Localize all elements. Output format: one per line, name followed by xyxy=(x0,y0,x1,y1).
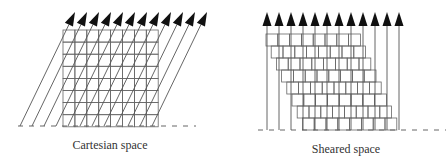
grid-cell xyxy=(111,54,123,66)
grid-cell xyxy=(282,70,294,82)
arrowhead-icon xyxy=(197,12,207,27)
grid-cell xyxy=(146,30,158,42)
grid-cell xyxy=(312,58,324,70)
cartesian-space-panel xyxy=(18,12,207,127)
grid-cell xyxy=(326,118,338,130)
grid-cell xyxy=(63,42,75,54)
grid-cell xyxy=(134,30,146,42)
grid-cell xyxy=(288,58,300,70)
cartesian-space-caption: Cartesian space xyxy=(73,138,148,153)
arrowhead-icon xyxy=(383,12,392,26)
arrowhead-icon xyxy=(263,12,272,26)
grid-cell xyxy=(99,66,111,78)
grid-cell xyxy=(359,58,371,70)
grid-cell xyxy=(287,82,299,94)
grid-cell xyxy=(283,46,295,58)
arrowhead-icon xyxy=(173,12,183,27)
arrow-shaft xyxy=(116,25,165,126)
arrow-shaft xyxy=(20,25,69,126)
grid-cell xyxy=(63,66,75,78)
grid-cell xyxy=(338,118,350,130)
arrowhead-icon xyxy=(161,12,171,27)
grid-cell xyxy=(352,70,364,82)
grid-cell xyxy=(276,58,288,70)
grid-cell xyxy=(134,42,146,54)
grid-cell xyxy=(75,66,87,78)
grid-cell xyxy=(349,34,361,46)
grid-cell xyxy=(334,82,346,94)
grid-cell xyxy=(75,91,87,103)
grid xyxy=(266,34,397,130)
grid-cell xyxy=(63,91,75,103)
grid-cell xyxy=(266,34,278,46)
grid-cell xyxy=(346,82,358,94)
grid-cell xyxy=(278,34,290,46)
arrowhead-icon xyxy=(275,12,284,26)
grid-cell xyxy=(335,58,347,70)
arrow-shaft xyxy=(92,25,141,126)
grid-cell xyxy=(304,94,316,106)
grid-cell xyxy=(87,91,99,103)
arrows xyxy=(20,12,207,126)
grid-cell xyxy=(87,54,99,66)
grid-cell xyxy=(380,106,392,118)
grid-cell xyxy=(330,46,342,58)
grid-cell xyxy=(99,30,111,42)
grid-cell xyxy=(111,42,123,54)
grid-cell xyxy=(300,58,312,70)
grid-cell xyxy=(363,94,375,106)
arrowhead-icon xyxy=(89,12,99,27)
grid-cell xyxy=(347,58,359,70)
grid-cell xyxy=(75,42,87,54)
arrowhead-icon xyxy=(77,12,87,27)
grid-cell xyxy=(316,94,328,106)
arrowhead-icon xyxy=(347,12,356,26)
grid-cell xyxy=(87,42,99,54)
grid-cell xyxy=(322,82,334,94)
arrowhead-icon xyxy=(311,12,320,26)
grid-cell xyxy=(146,42,158,54)
grid-cell xyxy=(354,46,366,58)
grid-cell xyxy=(87,66,99,78)
grid-cell xyxy=(123,66,135,78)
grid-cell xyxy=(292,94,304,106)
grid-cell xyxy=(375,94,387,106)
grid-cell xyxy=(368,106,380,118)
grid-cell xyxy=(87,78,99,90)
grid-cell xyxy=(295,46,307,58)
grid-cell xyxy=(307,46,319,58)
grid-cell xyxy=(299,82,311,94)
grid-cell xyxy=(358,82,370,94)
grid-cell xyxy=(302,118,314,130)
grid-cell xyxy=(123,42,135,54)
grid-cell xyxy=(63,78,75,90)
grid-cell xyxy=(123,54,135,66)
sheared-space-caption: Sheared space xyxy=(312,142,380,157)
arrowhead-icon xyxy=(299,12,308,26)
grid-cell xyxy=(99,42,111,54)
arrowhead-icon xyxy=(323,12,332,26)
grid-cell xyxy=(63,54,75,66)
grid-cell xyxy=(324,58,336,70)
grid-cell xyxy=(339,94,351,106)
arrow-shaft xyxy=(104,25,153,126)
arrowhead-icon xyxy=(101,12,111,27)
grid-cell xyxy=(310,82,322,94)
arrowhead-icon xyxy=(359,12,368,26)
arrow-shaft xyxy=(44,25,93,126)
arrowhead-icon xyxy=(149,12,159,27)
grid-cell xyxy=(342,46,354,58)
arrowhead-icon xyxy=(335,12,344,26)
grid-cell xyxy=(99,54,111,66)
grid-cell xyxy=(327,94,339,106)
arrow-shaft xyxy=(32,25,81,126)
grid-cell xyxy=(123,30,135,42)
grid-cell xyxy=(134,66,146,78)
grid-cell xyxy=(111,66,123,78)
arrow-shaft xyxy=(128,25,177,126)
sheared-space-panel xyxy=(258,12,446,130)
arrowhead-icon xyxy=(125,12,135,27)
grid-cell xyxy=(364,70,376,82)
grid-cell xyxy=(344,106,356,118)
grid-cell xyxy=(75,54,87,66)
